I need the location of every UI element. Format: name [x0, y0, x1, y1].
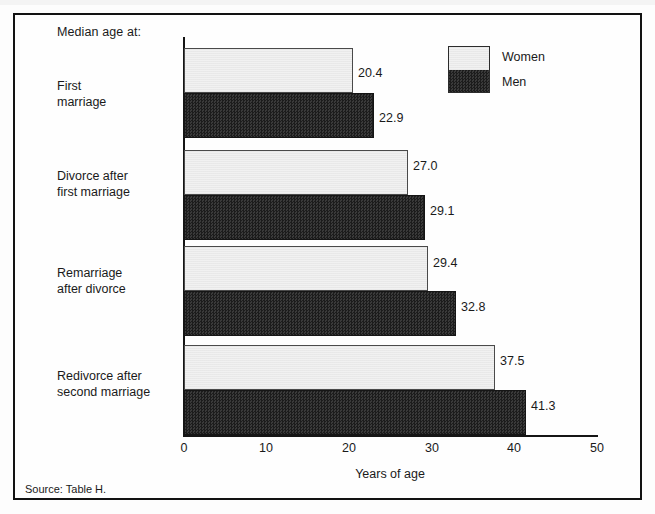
chart-figure: Median age at: 0 10 20 30 40 50 Years of…	[0, 0, 655, 514]
figure-border	[13, 13, 642, 500]
scan-edge	[0, 0, 655, 5]
